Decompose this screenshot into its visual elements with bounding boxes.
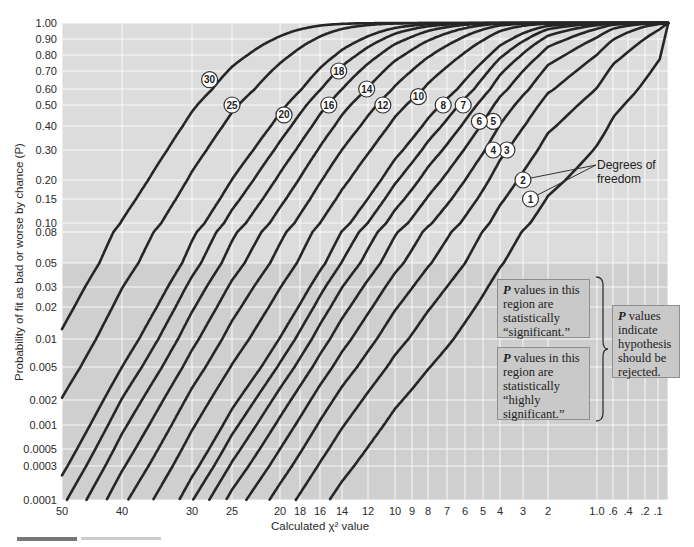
x-axis-ticks: 50403025201816141210987654321.0.6.4.2.1 — [56, 505, 663, 517]
svg-text:25: 25 — [226, 100, 238, 111]
y-tick-label: 0.01 — [36, 333, 57, 345]
y-tick-label: 0.002 — [29, 394, 57, 406]
degrees-of-freedom-text: Degrees of freedom — [597, 158, 656, 186]
df-label-14: 14 — [359, 81, 375, 97]
figure-caption-fragment — [17, 537, 167, 543]
svg-text:8: 8 — [440, 100, 446, 111]
df-label-25: 25 — [224, 97, 240, 113]
x-tick-label: 50 — [56, 505, 68, 517]
x-tick-label: 8 — [425, 505, 431, 517]
significant-note-text: values in this region are statistically … — [503, 283, 580, 339]
x-tick-label: 9 — [409, 505, 415, 517]
p-symbol: P — [618, 309, 626, 323]
x-tick-label: 25 — [226, 505, 238, 517]
df-label-1: 1 — [523, 191, 539, 207]
y-tick-label: 0.02 — [36, 301, 57, 313]
x-tick-label: 3 — [520, 505, 526, 517]
chi-square-chart: 123456781012141618202530 1.000.900.800.7… — [0, 0, 694, 547]
y-axis-ticks: 1.000.900.800.700.600.500.400.300.200.15… — [23, 17, 57, 506]
svg-text:20: 20 — [278, 109, 290, 120]
df-label-20: 20 — [276, 107, 292, 123]
df-label-10: 10 — [410, 89, 426, 105]
df-label-2: 2 — [515, 172, 531, 188]
x-tick-label: 20 — [274, 505, 286, 517]
caption-bar — [17, 537, 77, 541]
x-tick-label: 30 — [186, 505, 198, 517]
svg-text:30: 30 — [204, 74, 216, 85]
svg-text:14: 14 — [361, 84, 373, 95]
df-label-18: 18 — [331, 63, 347, 79]
svg-text:4: 4 — [490, 145, 496, 156]
x-tick-label: 5 — [480, 505, 486, 517]
caption-text-fragment — [81, 537, 161, 540]
x-tick-label: .1 — [653, 505, 662, 517]
svg-text:12: 12 — [377, 100, 389, 111]
x-tick-label: 18 — [294, 505, 306, 517]
df-label-30: 30 — [202, 72, 218, 88]
df-label-6: 6 — [471, 113, 487, 129]
svg-text:5: 5 — [490, 116, 496, 127]
svg-text:3: 3 — [504, 145, 510, 156]
y-tick-label: 0.20 — [36, 174, 57, 186]
svg-text:7: 7 — [460, 100, 466, 111]
reject-hypothesis-note: P values indicate hypothesis should be r… — [612, 305, 680, 378]
y-axis-title: Probability of fit as bad or worse by ch… — [13, 143, 25, 381]
svg-text:16: 16 — [323, 100, 335, 111]
df-label-12: 12 — [375, 97, 391, 113]
highly-significant-note-text: values in this region are statistically … — [503, 351, 580, 421]
y-tick-label: 0.15 — [36, 193, 57, 205]
degrees-of-freedom-label: Degrees of freedom — [597, 158, 694, 186]
svg-text:18: 18 — [333, 66, 345, 77]
y-tick-label: 0.80 — [36, 49, 57, 61]
reject-note-text: values indicate hypothesis should be rej… — [618, 309, 671, 379]
x-axis-title: Calculated χ² value — [271, 520, 369, 532]
x-tick-label: .4 — [623, 505, 632, 517]
y-tick-label: 1.00 — [36, 17, 57, 29]
df-label-7: 7 — [455, 97, 471, 113]
svg-text:10: 10 — [413, 91, 425, 102]
x-tick-label: 7 — [444, 505, 450, 517]
y-tick-label: 0.0005 — [23, 443, 57, 455]
x-tick-label: 2 — [545, 505, 551, 517]
significant-note: P values in this region are statisticall… — [497, 279, 590, 338]
x-tick-label: 16 — [314, 505, 326, 517]
p-symbol: P — [503, 283, 511, 297]
svg-text:1: 1 — [528, 194, 534, 205]
brace — [594, 275, 610, 423]
x-tick-label: 40 — [116, 505, 128, 517]
x-tick-label: .6 — [608, 505, 617, 517]
df-label-8: 8 — [435, 97, 451, 113]
y-tick-label: 0.005 — [29, 361, 57, 373]
x-tick-label: 1.0 — [589, 505, 604, 517]
y-tick-label: 0.60 — [36, 83, 57, 95]
x-tick-label: 4 — [497, 505, 503, 517]
x-tick-label: 14 — [336, 505, 348, 517]
y-tick-label: 0.40 — [36, 120, 57, 132]
svg-text:2: 2 — [520, 175, 526, 186]
y-tick-label: 0.08 — [36, 226, 57, 238]
svg-text:6: 6 — [477, 116, 483, 127]
x-tick-label: 12 — [362, 505, 374, 517]
x-tick-label: .2 — [640, 505, 649, 517]
x-tick-label: 6 — [462, 505, 468, 517]
p-symbol: P — [503, 351, 511, 365]
y-tick-label: 0.05 — [36, 257, 57, 269]
y-tick-label: 0.0001 — [23, 494, 57, 506]
y-tick-label: 0.30 — [36, 144, 57, 156]
y-tick-label: 0.50 — [36, 99, 57, 111]
y-tick-label: 0.03 — [36, 281, 57, 293]
df-label-4: 4 — [485, 142, 501, 158]
x-tick-label: 10 — [389, 505, 401, 517]
highly-significant-note: P values in this region are statisticall… — [497, 347, 590, 420]
y-tick-label: 0.70 — [36, 65, 57, 77]
y-tick-label: 0.001 — [29, 419, 57, 431]
y-tick-label: 0.90 — [36, 33, 57, 45]
y-tick-label: 0.0003 — [23, 460, 57, 472]
df-label-16: 16 — [321, 97, 337, 113]
